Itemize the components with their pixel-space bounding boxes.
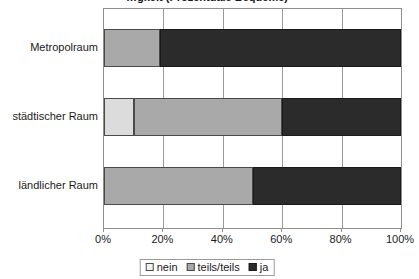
x-axis-tick	[162, 228, 163, 232]
x-axis-line	[103, 228, 401, 229]
bar-segment	[104, 29, 160, 67]
x-axis-tick-label: 80%	[317, 233, 365, 246]
x-axis-tick	[103, 228, 104, 232]
y-axis-label: ländlicher Raum	[0, 179, 98, 191]
x-axis-tick	[222, 228, 223, 232]
x-axis-tick	[400, 228, 401, 232]
bar-segment	[134, 98, 283, 136]
legend-swatch-icon	[249, 263, 257, 271]
x-axis-tick-label: 0%	[79, 233, 127, 246]
plot-area	[103, 8, 402, 229]
bar-group	[104, 98, 401, 136]
legend-item: nein	[146, 261, 178, 273]
legend-label: nein	[157, 261, 178, 273]
x-axis-tick-label: 60%	[257, 233, 305, 246]
y-axis-label: Metropolraum	[0, 41, 98, 53]
bar-segment	[282, 98, 401, 136]
bar-segment	[104, 98, 134, 136]
bar-segment	[104, 167, 253, 205]
x-axis-tick-label: 20%	[138, 233, 186, 246]
x-axis-tick	[341, 228, 342, 232]
x-axis-tick-label: 100%	[376, 233, 419, 246]
chart-title: …gkeit (Prozentuale Bequeme)	[0, 0, 414, 4]
legend-item: teils/teils	[187, 261, 240, 273]
legend-swatch-icon	[187, 263, 195, 271]
bar-group	[104, 29, 401, 67]
y-axis-category-labels: Metropolraumstädtischer Raumländlicher R…	[0, 8, 98, 228]
chart-legend: neinteils/teilsja	[140, 259, 275, 276]
bar-group	[104, 167, 401, 205]
legend-label: ja	[260, 261, 269, 273]
legend-label: teils/teils	[198, 261, 240, 273]
chart-title-strip: …gkeit (Prozentuale Bequeme)	[0, 0, 414, 7]
bar-segment	[160, 29, 401, 67]
legend-swatch-icon	[146, 263, 154, 271]
x-axis-tick-label: 40%	[198, 233, 246, 246]
y-axis-label: städtischer Raum	[0, 110, 98, 122]
bar-segment	[253, 167, 402, 205]
x-axis-tick	[281, 228, 282, 232]
legend-item: ja	[249, 261, 269, 273]
